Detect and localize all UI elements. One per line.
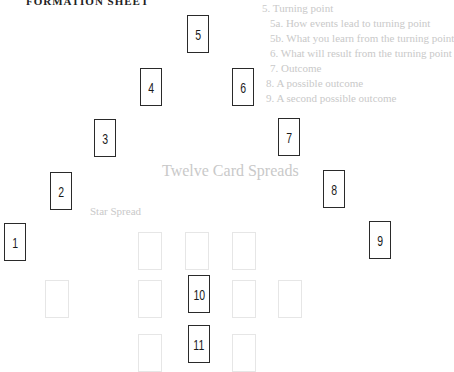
bleed-line: 8. A possible outcome — [266, 77, 363, 89]
bleed-box — [138, 232, 162, 270]
card-position-8: 8 — [323, 170, 345, 208]
bleed-line: 5. Turning point — [262, 2, 333, 14]
card-position-10: 10 — [188, 275, 210, 313]
bleed-box — [232, 334, 256, 372]
card-position-6: 6 — [232, 68, 254, 106]
card-number: 10 — [193, 286, 205, 303]
card-number: 4 — [148, 79, 154, 96]
card-number: 9 — [377, 232, 383, 249]
card-position-1: 1 — [4, 223, 26, 261]
card-position-4: 4 — [140, 68, 162, 106]
card-number: 1 — [12, 234, 18, 251]
card-number: 3 — [102, 130, 108, 147]
bleed-box — [138, 334, 162, 372]
bleed-box — [185, 232, 209, 270]
card-position-9: 9 — [369, 221, 391, 259]
bleed-line: 7. Outcome — [270, 62, 321, 74]
card-number: 8 — [331, 181, 337, 198]
bleed-line: 9. A second possible outcome — [266, 92, 396, 104]
bleed-box — [45, 280, 69, 318]
card-position-2: 2 — [50, 172, 72, 210]
bleed-box — [278, 280, 302, 318]
bleed-box — [232, 232, 256, 270]
card-position-11: 11 — [188, 325, 210, 363]
sheet-title: FORMATION SHEET — [26, 0, 149, 7]
card-position-3: 3 — [94, 119, 116, 157]
bleed-box — [232, 280, 256, 318]
card-number: 2 — [58, 183, 64, 200]
card-position-7: 7 — [278, 118, 300, 156]
card-number: 5 — [195, 26, 201, 43]
card-number: 7 — [286, 129, 292, 146]
bleed-subheading: Star Spread — [90, 205, 141, 217]
bleed-line: 5b. What you learn from the turning poin… — [270, 32, 454, 44]
card-position-5: 5 — [187, 15, 209, 53]
bleed-line: 6. What will result from the turning poi… — [270, 47, 452, 59]
bleed-heading: Twelve Card Spreads — [162, 162, 299, 180]
bleed-line: 5a. How events lead to turning point — [270, 17, 430, 29]
card-number: 6 — [240, 79, 246, 96]
bleed-box — [138, 280, 162, 318]
card-number: 11 — [194, 336, 205, 353]
